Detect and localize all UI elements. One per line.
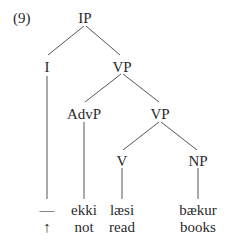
leaf-laesi: læsi [110,203,134,218]
gloss-up-arrow-icon: ↑ [43,220,51,235]
edge-vp-v [123,122,159,150]
edge-ip-i [48,26,84,55]
leaf-trace: — [40,203,55,218]
example-number: (9) [13,11,31,26]
gloss-books: books [180,220,216,235]
edge-vp-vp [123,74,159,102]
edge-ip-vp [86,26,120,55]
edge-vp-advp [85,74,121,102]
node-ip: IP [78,11,91,26]
node-vp-lower: VP [150,107,169,122]
node-advp: AdvP [67,107,101,122]
gloss-not: not [74,220,93,235]
leaf-ekki: ekki [71,203,97,218]
node-np: NP [188,154,207,169]
node-i: I [45,60,50,75]
node-v: V [117,154,128,169]
node-vp-upper: VP [112,60,131,75]
leaf-baekur: bækur [179,203,217,218]
gloss-read: read [109,220,135,235]
edge-vp-np [161,122,197,150]
